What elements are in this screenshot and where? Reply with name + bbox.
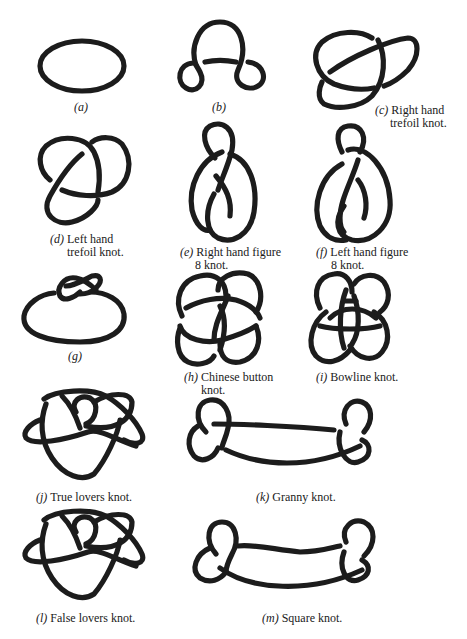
caption-m: (m) Square knot. [262, 612, 342, 625]
knot-figure-page: (a) (b) (c) Right hand trefoil knot. (d)… [0, 0, 467, 639]
knot-m-square-drawing [0, 0, 467, 639]
